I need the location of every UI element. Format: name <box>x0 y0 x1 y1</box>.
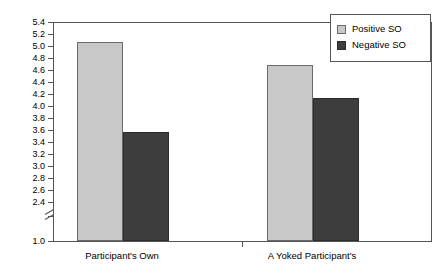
bar-positive-yoked-participants <box>267 65 313 241</box>
y-tick-label: 3.4 <box>32 138 45 147</box>
y-tick-label: 5.0 <box>32 42 45 51</box>
x-tick-label-yoked-participants: A Yoked Participant's <box>268 250 356 261</box>
y-tick-label: 4.2 <box>32 90 45 99</box>
legend-swatch-positive-so <box>337 25 346 34</box>
y-tick-label: 4.0 <box>32 102 45 111</box>
y-tick-label: 3.2 <box>32 150 45 159</box>
legend-label-negative-so: Negative SO <box>352 40 406 50</box>
bar-negative-participants-own <box>123 132 169 241</box>
y-tick-label: 2.6 <box>32 186 45 195</box>
y-tick-label: 5.2 <box>32 30 45 39</box>
legend-label-positive-so: Positive SO <box>352 24 402 34</box>
legend-item-positive-so: Positive SO <box>337 21 430 37</box>
y-tick-label: 4.4 <box>32 78 45 87</box>
legend-swatch-negative-so <box>337 41 346 50</box>
bar-positive-participants-own <box>77 42 123 241</box>
y-tick-label: 5.4 <box>32 18 45 27</box>
x-axis-group-divider <box>242 242 243 247</box>
y-tick-label: 4.8 <box>32 54 45 63</box>
y-tick-label: 2.8 <box>32 174 45 183</box>
chart-container: 5.4 5.2 5.0 4.8 4.6 4.4 4.2 4.0 3.8 3.6 … <box>0 0 438 279</box>
y-tick-label: 3.8 <box>32 114 45 123</box>
y-tick-label: 4.6 <box>32 66 45 75</box>
x-tick-label-participants-own: Participant's Own <box>85 250 159 261</box>
y-tick-label: 3.6 <box>32 126 45 135</box>
y-tick-label-base: 1.0 <box>32 237 45 246</box>
bar-negative-yoked-participants <box>313 98 359 241</box>
y-tick-label: 3.0 <box>32 162 45 171</box>
legend-item-negative-so: Negative SO <box>337 37 430 53</box>
legend: Positive SO Negative SO <box>330 14 431 62</box>
